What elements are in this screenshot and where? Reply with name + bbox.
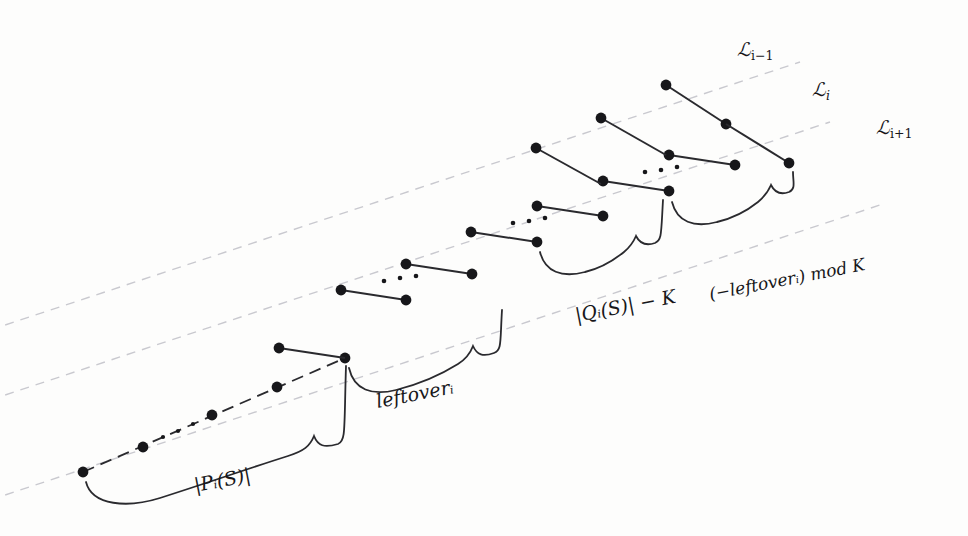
node-dot — [467, 269, 478, 280]
pair-segment-group-2 — [336, 259, 478, 306]
guide-label-subscript: i — [826, 88, 830, 103]
pair-segment-group-upper-1 — [531, 143, 601, 184]
node-dot — [598, 211, 609, 222]
pair-segment — [279, 348, 345, 358]
guide-line-L-i — [0, 122, 830, 400]
pair-segment-group-1 — [274, 343, 345, 358]
left-dashed-run — [78, 353, 351, 478]
pair-segment — [536, 148, 601, 184]
script-L-glyph: ℒ — [737, 38, 751, 60]
guide-label-subscript: i+1 — [890, 126, 912, 141]
figure-canvas: ℒi−1 ℒi ℒi+1 |Pᵢ(S)| leftoverᵢ |Qᵢ(S)| −… — [0, 0, 968, 536]
guide-label-L-i-plus-1: ℒi+1 — [876, 118, 912, 140]
ellipsis-dots — [382, 274, 419, 284]
pair-segment — [726, 124, 789, 163]
pair-segment — [603, 181, 669, 191]
node-dot — [207, 410, 218, 421]
pair-segment — [341, 290, 406, 300]
node-dot — [598, 176, 609, 187]
node-dot — [532, 201, 543, 212]
node-dot — [138, 442, 149, 453]
guide-label-subscript: i−1 — [751, 48, 773, 63]
pair-segment-group-4 — [598, 150, 741, 197]
node-dot — [664, 186, 675, 197]
node-dot — [730, 160, 741, 171]
script-L-glyph: ℒ — [812, 78, 826, 100]
lattice-connectors — [471, 148, 536, 232]
pair-segment-group-upper-3 — [661, 80, 795, 169]
node-dot — [532, 237, 543, 248]
underbrace-neg-leftover — [672, 172, 794, 224]
node-dot — [336, 285, 347, 296]
node-dot — [466, 227, 477, 238]
pair-segment-group-upper-2 — [596, 113, 666, 155]
pair-segment — [471, 148, 536, 232]
node-dot — [784, 158, 795, 169]
script-L-glyph: ℒ — [876, 116, 890, 138]
ellipsis-dots — [643, 165, 680, 175]
guide-line-L-i-minus-1 — [0, 62, 800, 330]
pair-segment — [601, 118, 666, 155]
node-dot — [274, 343, 285, 354]
pair-segment — [406, 264, 472, 274]
node-dot — [531, 143, 542, 154]
node-dot — [596, 113, 607, 124]
pair-segment-group-3 — [466, 201, 609, 248]
pair-segment — [666, 85, 726, 124]
guide-label-L-i-minus-1: ℒi−1 — [737, 40, 773, 62]
node-dot — [401, 295, 412, 306]
node-dot — [401, 259, 412, 270]
node-dot — [661, 80, 672, 91]
node-dot — [78, 467, 89, 478]
node-dot — [272, 382, 283, 393]
guide-label-L-i: ℒi — [812, 80, 830, 102]
